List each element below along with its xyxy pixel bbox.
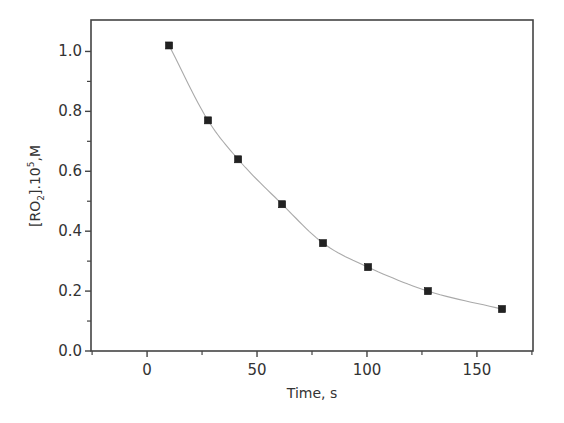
x-tick-label: 50 — [247, 361, 266, 379]
y-axis-title-part: ].10 — [27, 167, 43, 195]
data-point — [279, 201, 286, 208]
axis-labels: Time, s [RO2].105,M — [26, 145, 337, 401]
y-tick-label: 0.2 — [58, 282, 82, 300]
x-tick-label: 0 — [142, 361, 152, 379]
y-tick-label: 0.6 — [58, 162, 82, 180]
x-axis-title: Time, s — [286, 385, 337, 401]
x-tick-label: 100 — [353, 361, 382, 379]
data-point — [424, 288, 431, 295]
y-axis-title-part: [RO — [27, 201, 43, 227]
data-points — [166, 42, 506, 313]
data-point — [166, 42, 173, 49]
chart: 0501001500.00.20.40.60.81.0 Time, s [RO2… — [0, 0, 564, 423]
y-tick-label: 1.0 — [58, 42, 82, 60]
data-point — [235, 156, 242, 163]
y-tick-label: 0.8 — [58, 102, 82, 120]
data-point — [365, 264, 372, 271]
x-tick-label: 150 — [463, 361, 492, 379]
y-axis-title: [RO2].105,M — [26, 145, 46, 227]
y-axis-title-part: ,M — [27, 145, 43, 162]
axes: 0501001500.00.20.40.60.81.0 — [58, 20, 533, 379]
fit-curve — [169, 46, 502, 310]
data-point — [319, 240, 326, 247]
data-point — [498, 306, 505, 313]
y-tick-label: 0.4 — [58, 222, 82, 240]
fit-line — [169, 46, 502, 310]
y-tick-label: 0.0 — [58, 342, 82, 360]
data-point — [204, 117, 211, 124]
